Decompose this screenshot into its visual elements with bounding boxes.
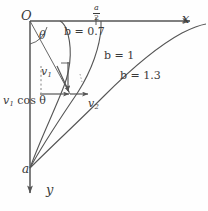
curve-label-b-1: b = 1 <box>104 50 134 61</box>
v1-label: v1 <box>41 66 52 78</box>
x-axis-label: x <box>182 12 189 25</box>
curve-label-b-0-7: b = 0.7 <box>64 26 105 37</box>
y-axis-label: y <box>46 183 53 196</box>
curve-label-b-1-3: b = 1.3 <box>120 70 161 81</box>
v1-cos-theta-label: v1 cos θ <box>3 95 46 107</box>
curve-label-prefix-b-1-3: b = <box>120 69 143 82</box>
tick-numerator: a <box>94 4 99 12</box>
tick-denominator: 2 <box>94 14 99 22</box>
v2-subscript: 2 <box>95 103 99 111</box>
curve-label-value-b-0-7: 0.7 <box>87 25 105 38</box>
curve-label-prefix-b-0-7: b = <box>64 25 87 38</box>
start-point-label: a <box>22 163 29 175</box>
x-axis-tick-label-a-half: a 2 <box>93 4 100 22</box>
v1-symbol: v <box>41 65 47 78</box>
v1-subscript: 1 <box>48 71 52 79</box>
v2-symbol: v <box>88 97 94 110</box>
curve-label-value-b-1: 1 <box>127 49 134 62</box>
v2-label: v2 <box>88 98 99 110</box>
angle-theta-label: θ <box>39 30 46 41</box>
origin-label: O <box>21 9 32 22</box>
curve-label-prefix-b-1: b = <box>104 49 127 62</box>
v1cos-symbol: v <box>3 94 9 107</box>
curve-label-value-b-1-3: 1.3 <box>143 69 161 82</box>
v1cos-rest: cos θ <box>14 94 46 107</box>
